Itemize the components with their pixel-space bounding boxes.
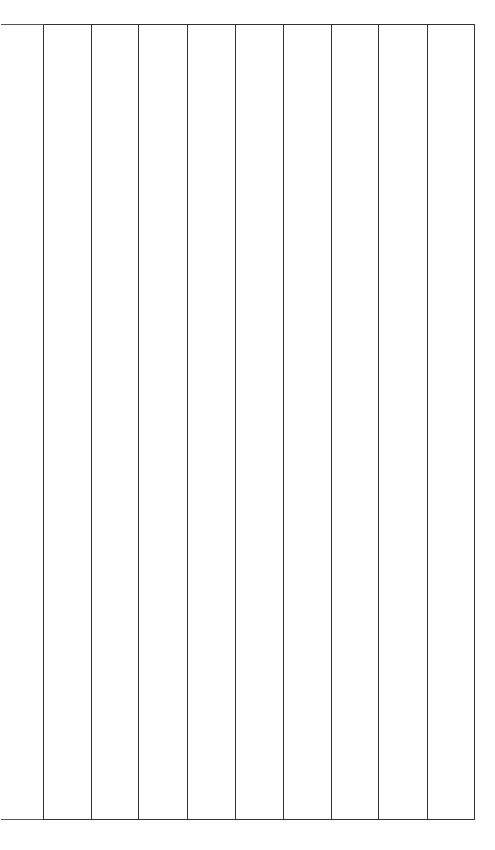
grid-svg: [0, 0, 495, 850]
canvas-background: [0, 0, 495, 850]
page-canvas: [0, 0, 495, 850]
empty-ruled-column-grid: [0, 0, 495, 850]
